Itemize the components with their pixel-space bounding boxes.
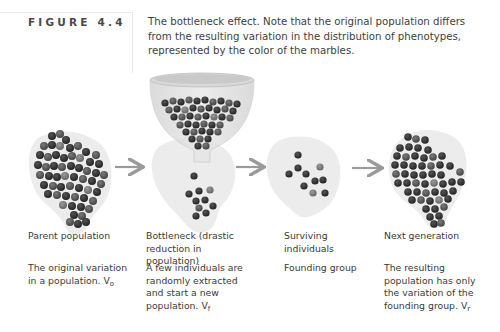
variation-symbol: Vf	[201, 300, 210, 311]
parent-population-blob	[29, 130, 112, 234]
step-title-surviving-individuals: Surviving individuals	[284, 230, 354, 255]
step-desc-parent-population: The original variation in a population. …	[28, 262, 134, 290]
desc-text: A few individuals are randomly extracted…	[146, 262, 243, 311]
bottleneck-group	[150, 73, 254, 233]
step-desc-next-generation: The resulting population has only the va…	[384, 262, 480, 315]
step-desc-bottleneck: A few individuals are randomly extracted…	[146, 262, 258, 315]
surviving-individuals-group	[267, 137, 341, 218]
step-title-parent-population: Parent population	[28, 230, 138, 243]
step-desc-surviving-individuals: Founding group	[284, 262, 374, 275]
variation-symbol: Vr	[461, 300, 470, 311]
next-generation-group	[389, 130, 467, 228]
variation-symbol: Vo	[103, 275, 114, 286]
step-title-next-generation: Next generation	[384, 230, 494, 243]
